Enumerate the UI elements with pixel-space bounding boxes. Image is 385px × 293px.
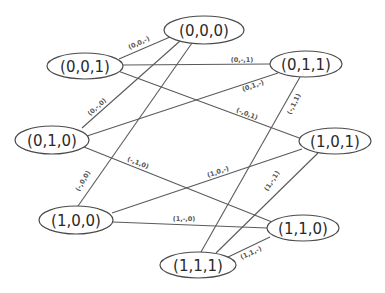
- node-label: (1,0,1): [310, 133, 360, 151]
- edge-label: (0,0,-): [127, 35, 151, 52]
- edge-label: (-,0,1): [235, 106, 259, 122]
- node-label: (1,1,1): [173, 257, 223, 275]
- node-label: (1,0,0): [51, 212, 101, 230]
- node-label: (0,1,1): [281, 56, 331, 74]
- node-n000: (0,0,0): [164, 16, 244, 44]
- node-label: (0,0,0): [179, 22, 229, 40]
- node-n011: (0,1,1): [270, 51, 342, 77]
- node-label: (1,1,0): [278, 220, 328, 238]
- edge-n010-n110: [84, 147, 272, 222]
- node-n110: (1,1,0): [267, 215, 339, 241]
- edge-label: (1,-,1): [262, 169, 281, 192]
- edge-label: (1,-,0): [173, 215, 196, 223]
- edge-label: (0,-,1): [231, 56, 254, 64]
- edge-n001-n101: [118, 71, 302, 139]
- edge-label: (0,1,-): [241, 79, 265, 94]
- node-n010: (0,1,0): [15, 126, 89, 154]
- node-n101: (1,0,1): [299, 128, 371, 154]
- edge-label: (1,1,-): [239, 245, 263, 262]
- edge-n001-n011: [122, 64, 270, 65]
- node-n100: (1,0,0): [39, 206, 113, 234]
- node-n001: (0,0,1): [47, 53, 123, 79]
- node-label: (0,0,1): [60, 58, 110, 76]
- node-label: (0,1,0): [27, 132, 77, 150]
- edge-label: (-,1,1): [285, 92, 302, 116]
- node-n111: (1,1,1): [160, 252, 236, 278]
- state-graph-diagram: (0,0,-)(0,-,1)(-,0,1)(0,-,0)(0,1,-)(-,1,…: [0, 0, 385, 293]
- nodes-layer: (0,0,0)(0,0,1)(0,1,1)(0,1,0)(1,0,1)(1,0,…: [15, 16, 371, 278]
